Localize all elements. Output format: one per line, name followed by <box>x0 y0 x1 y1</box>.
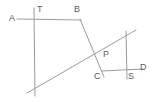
point-label-b: B <box>74 5 80 14</box>
point-label-c: C <box>94 72 101 81</box>
diagram-canvas <box>0 0 157 102</box>
point-label-d: D <box>140 63 147 72</box>
point-label-t: T <box>37 5 43 14</box>
vertical-line-through-t <box>34 8 35 96</box>
point-label-p: P <box>103 50 109 59</box>
geometry-diagram: A T B P C S D <box>0 0 157 102</box>
vertical-line-through-s <box>126 31 127 79</box>
line-segment-ab <box>17 19 81 20</box>
transversal-line-rising <box>27 30 136 93</box>
point-label-a: A <box>9 14 15 23</box>
transversal-line-b-to-c <box>80 19 104 77</box>
line-segment-cd <box>102 69 143 71</box>
point-label-s: S <box>128 72 134 81</box>
